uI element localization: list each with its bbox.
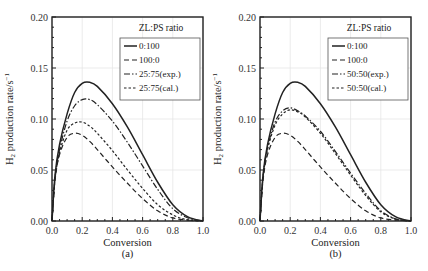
x-tick-label: 0.8 — [167, 225, 180, 236]
x-tick-label: 0.6 — [344, 225, 357, 236]
x-tick-label: 0.0 — [254, 225, 267, 236]
legend-item-label: 0:100 — [139, 41, 160, 51]
x-tick-label: 0.0 — [46, 225, 59, 236]
y-tick-label: 0.00 — [239, 216, 257, 227]
x-tick-label: 0.4 — [314, 225, 327, 236]
panel-label: (b) — [329, 248, 342, 260]
chart-panel-b: 0.00.20.40.60.81.00.000.050.100.150.20Co… — [211, 12, 417, 261]
y-tick-label: 0.10 — [31, 114, 49, 125]
chart-panel-a: 0.00.20.40.60.81.00.000.050.100.150.20Co… — [3, 12, 209, 261]
x-tick-label: 0.4 — [106, 225, 119, 236]
legend: 0:100100:050:50(exp.)50:50(cal.) — [328, 38, 408, 100]
x-tick-label: 1.0 — [405, 225, 418, 236]
y-tick-label: 0.00 — [31, 216, 49, 227]
y-axis-title: H2 production rate/s−1 — [3, 72, 17, 165]
series-line-0-100 — [52, 82, 203, 221]
legend-item-label: 50:50(exp.) — [347, 69, 389, 79]
y-tick-label: 0.05 — [239, 165, 257, 176]
y-tick-label: 0.05 — [31, 165, 49, 176]
y-axis-title: H2 production rate/s−1 — [211, 72, 225, 165]
y-tick-label: 0.20 — [239, 12, 257, 23]
x-tick-label: 1.0 — [197, 225, 210, 236]
y-tick-label: 0.20 — [31, 12, 49, 23]
legend-item-label: 100:0 — [139, 55, 160, 65]
legend-title: ZL:PS ratio — [139, 23, 184, 33]
x-tick-label: 0.2 — [284, 225, 297, 236]
x-tick-label: 0.6 — [136, 225, 149, 236]
series-line-25-75-exp- — [52, 99, 203, 221]
legend-item-label: 0:100 — [347, 41, 368, 51]
panel-label: (a) — [122, 248, 134, 260]
legend-item-label: 100:0 — [347, 55, 368, 65]
legend-item-label: 25:75(exp.) — [139, 69, 181, 79]
legend-title: ZL:PS ratio — [347, 23, 392, 33]
x-axis-title: Conversion — [311, 237, 360, 248]
series-line-25-75-cal- — [52, 122, 203, 221]
series-line-100-0 — [52, 133, 203, 221]
x-axis-title: Conversion — [103, 237, 152, 248]
x-tick-label: 0.2 — [76, 225, 89, 236]
x-tick-label: 0.8 — [375, 225, 388, 236]
legend-item-label: 50:50(cal.) — [347, 83, 386, 93]
series-line-100-0 — [260, 133, 411, 221]
y-tick-label: 0.15 — [31, 63, 49, 74]
legend: 0:100100:025:75(exp.)25:75(cal.) — [120, 38, 200, 100]
y-tick-label: 0.10 — [239, 114, 257, 125]
y-tick-label: 0.15 — [239, 63, 257, 74]
legend-item-label: 25:75(cal.) — [139, 83, 178, 93]
series-line-50-50-exp- — [260, 108, 411, 221]
chart-figure: 0.00.20.40.60.81.00.000.050.100.150.20Co… — [0, 0, 428, 271]
